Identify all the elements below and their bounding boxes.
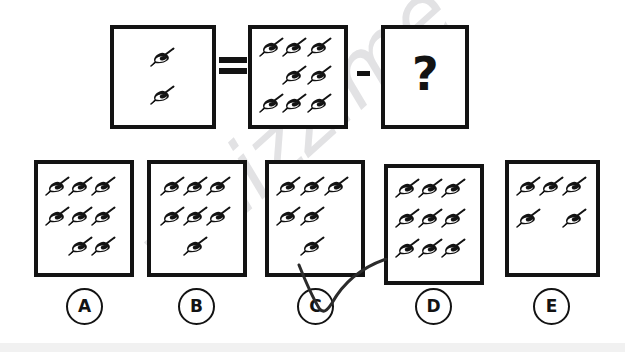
unknown-box-inner: ? bbox=[385, 29, 465, 125]
spinning-top-icon bbox=[206, 176, 232, 197]
spinning-top-icon bbox=[307, 65, 333, 86]
puzzle-canvas: whizz.me ? A B C D bbox=[0, 0, 625, 352]
equals-sign bbox=[219, 57, 247, 74]
option-box-c[interactable] bbox=[265, 160, 365, 277]
option-a-icons bbox=[38, 164, 130, 273]
option-e-icons bbox=[509, 164, 596, 273]
result-box bbox=[110, 25, 216, 129]
spinning-top-icon bbox=[441, 178, 467, 199]
spinning-top-icon bbox=[91, 176, 117, 197]
option-label-d[interactable]: D bbox=[415, 288, 452, 325]
spinning-top-icon bbox=[562, 208, 588, 229]
option-box-a[interactable] bbox=[34, 160, 134, 277]
spinning-top-icon bbox=[441, 208, 467, 229]
option-box-b[interactable] bbox=[147, 160, 247, 277]
option-label-d-text: D bbox=[426, 298, 440, 315]
option-d-icons bbox=[388, 168, 480, 281]
spinning-top-icon bbox=[562, 176, 588, 197]
option-label-a-text: A bbox=[78, 298, 91, 315]
spinning-top-icon bbox=[150, 47, 176, 68]
option-box-d[interactable] bbox=[384, 164, 484, 285]
spinning-top-icon bbox=[91, 206, 117, 227]
bottom-bar bbox=[0, 343, 625, 352]
spinning-top-icon bbox=[307, 37, 333, 58]
option-label-a[interactable]: A bbox=[66, 288, 103, 325]
spinning-top-icon bbox=[91, 236, 117, 257]
spinning-top-icon bbox=[183, 236, 209, 257]
unknown-box: ? bbox=[381, 25, 469, 129]
question-mark: ? bbox=[412, 51, 439, 97]
spinning-top-icon bbox=[300, 236, 326, 257]
spinning-top-icon bbox=[206, 206, 232, 227]
result-box-icons bbox=[114, 29, 212, 125]
spinning-top-icon bbox=[300, 176, 326, 197]
spinning-top-icon bbox=[282, 37, 308, 58]
option-label-b[interactable]: B bbox=[178, 288, 215, 325]
option-label-c[interactable]: C bbox=[297, 288, 334, 325]
spinning-top-icon bbox=[441, 238, 467, 259]
spinning-top-icon bbox=[276, 176, 302, 197]
minuend-box-icons bbox=[252, 29, 344, 125]
spinning-top-icon bbox=[282, 93, 308, 114]
spinning-top-icon bbox=[307, 93, 333, 114]
spinning-top-icon bbox=[150, 85, 176, 106]
option-box-e[interactable] bbox=[505, 160, 600, 277]
option-label-b-text: B bbox=[190, 298, 203, 315]
option-label-c-text: C bbox=[309, 298, 321, 315]
spinning-top-icon bbox=[276, 206, 302, 227]
spinning-top-icon bbox=[324, 176, 350, 197]
option-label-e[interactable]: E bbox=[533, 288, 570, 325]
spinning-top-icon bbox=[282, 65, 308, 86]
minuend-box bbox=[248, 25, 348, 129]
option-c-icons bbox=[269, 164, 361, 273]
minus-sign bbox=[357, 71, 370, 76]
spinning-top-icon bbox=[300, 206, 326, 227]
option-b-icons bbox=[151, 164, 243, 273]
option-label-e-text: E bbox=[546, 298, 558, 315]
spinning-top-icon bbox=[516, 208, 542, 229]
